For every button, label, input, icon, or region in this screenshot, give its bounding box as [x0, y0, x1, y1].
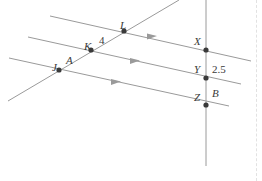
point-label-Z: Z [194, 92, 200, 103]
point-label-K: K [84, 41, 91, 52]
point-label-Y: Y [194, 64, 200, 75]
point-X [203, 47, 208, 52]
parallel-arrow-marker-bottom [111, 79, 121, 85]
parallel-arrow-markers-group [111, 34, 157, 86]
geometry-figure: J K L X Y Z A B 4 2.5 [0, 0, 262, 181]
point-J [56, 67, 61, 72]
right-edge-divider [256, 0, 257, 181]
parallel-arrow-marker-middle [130, 58, 140, 64]
point-Y [203, 75, 208, 80]
segment-label-B: B [212, 88, 219, 99]
point-Z [203, 102, 208, 107]
point-label-L: L [120, 20, 126, 31]
point-label-X: X [194, 36, 201, 47]
geometry-canvas [0, 0, 262, 181]
segment-label-A: A [66, 55, 73, 66]
point-label-J: J [52, 62, 57, 73]
segment-length-2-5: 2.5 [212, 64, 226, 75]
line-through-L-and-X [50, 16, 251, 61]
intersection-points-group [56, 28, 208, 107]
segment-length-4: 4 [99, 35, 105, 46]
transversal-lines-group [8, 0, 206, 166]
